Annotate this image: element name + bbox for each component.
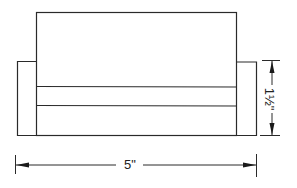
right-arm: [237, 62, 257, 136]
width-dimension: 5": [16, 154, 257, 177]
arrow-up-icon: [270, 61, 275, 73]
seat-top-line: [37, 87, 237, 88]
width-label: 5": [124, 157, 136, 172]
left-arm: [18, 62, 37, 136]
arrow-left-icon: [16, 163, 29, 168]
sofa-back-outline: [37, 13, 237, 136]
arrow-down-icon: [270, 123, 275, 135]
arrow-right-icon: [243, 163, 256, 168]
seat-bottom-line: [37, 106, 237, 107]
arm-height-label: 1½": [262, 88, 277, 111]
sofa-elevation-drawing: 1½" 5": [0, 0, 297, 188]
arm-height-dimension: 1½": [260, 61, 280, 136]
